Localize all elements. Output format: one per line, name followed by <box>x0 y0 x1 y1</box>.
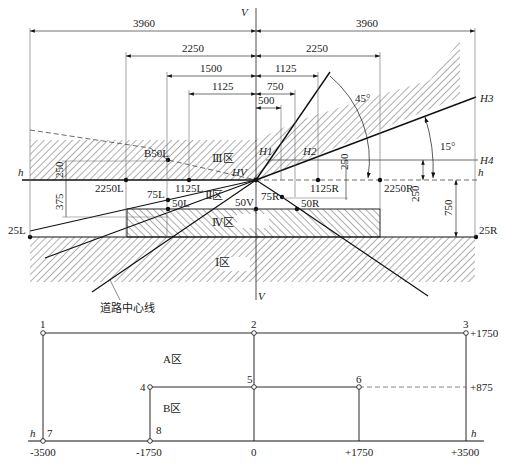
top-diagram: V V h h H4 H3 H1 H2 25L 25R <box>8 6 498 314</box>
dim-left-2250: 2250 <box>182 42 205 54</box>
point-75r: 75R <box>261 190 280 202</box>
dim-right-250: 250 <box>409 185 421 202</box>
point-4: 4 <box>140 381 146 393</box>
point-50r: 50R <box>301 197 320 209</box>
zone-b-label: B区 <box>163 402 181 414</box>
point-2: 2 <box>251 318 257 330</box>
v-axis-label-top: V <box>241 6 249 18</box>
bottom-diagram: h h 1 2 3 4 5 6 7 8 A区 B区 +1750 +875 -35… <box>28 318 499 458</box>
point-1125r: 1125R <box>310 182 340 194</box>
point-75l: 75L <box>147 188 165 200</box>
bottom-h-label-right: h <box>471 427 477 439</box>
point-50l: 50L <box>172 197 190 209</box>
h1-label: H1 <box>258 145 272 157</box>
dim-right-1125: 1125 <box>275 62 297 74</box>
zone-i-area <box>30 237 475 282</box>
point-1: 1 <box>40 318 46 330</box>
point-7: 7 <box>47 427 53 439</box>
point-8: 8 <box>156 424 162 436</box>
h-label-left: h <box>18 166 24 178</box>
x-tick-3500: +3500 <box>451 446 480 458</box>
point-25r: 25R <box>479 224 498 236</box>
x-tick-neg3500: -3500 <box>30 446 56 458</box>
zone-ii-label: Ⅱ区 <box>205 189 223 201</box>
zone-iii-label: Ⅲ区 <box>212 152 234 164</box>
dim-right-750: 750 <box>442 199 454 216</box>
zone-iii-area <box>30 40 460 180</box>
road-centerline-label: 道路中心线 <box>100 301 155 314</box>
dim-left-375: 375 <box>53 193 65 210</box>
angle-15: 15° <box>440 140 455 152</box>
point-hv: HV <box>231 166 248 178</box>
zone-i-label: Ⅰ区 <box>215 256 230 268</box>
zone-iv-label: Ⅳ区 <box>212 216 234 228</box>
dim-mid-250: 250 <box>338 153 350 170</box>
h3-label: H3 <box>479 92 494 104</box>
h2-label: H2 <box>302 145 317 157</box>
dim-left-1500: 1500 <box>200 62 223 74</box>
dim-right-2250: 2250 <box>306 42 329 54</box>
dim-left-3960: 3960 <box>133 17 156 29</box>
dim-right-3960: 3960 <box>356 17 379 29</box>
point-1125l: 1125L <box>175 182 204 194</box>
x-tick-neg1750: -1750 <box>136 446 162 458</box>
x-tick-1750: +1750 <box>345 446 374 458</box>
bottom-h-label-left: h <box>30 427 36 439</box>
zone-a-label: A区 <box>163 353 182 365</box>
point-3: 3 <box>463 318 469 330</box>
y-tick-1750: +1750 <box>470 327 499 339</box>
v-axis-label-bottom: V <box>258 290 266 302</box>
dim-right-500: 500 <box>258 94 275 106</box>
point-50v: 50V <box>235 196 254 208</box>
point-2250l: 2250L <box>95 182 124 194</box>
h4-label: H4 <box>479 154 494 166</box>
x-tick-0: 0 <box>251 446 257 458</box>
point-25l: 25L <box>8 224 26 236</box>
h-label-right: h <box>478 166 484 178</box>
headlamp-zone-diagram: V V h h H4 H3 H1 H2 25L 25R <box>0 0 505 469</box>
angle-45: 45° <box>355 92 370 104</box>
dim-right-750: 750 <box>267 80 284 92</box>
point-5: 5 <box>247 373 253 385</box>
dim-left-1125: 1125 <box>212 80 234 92</box>
point-b50l: B50L <box>144 147 169 159</box>
point-6: 6 <box>356 373 362 385</box>
dim-left-250: 250 <box>53 161 65 178</box>
y-tick-875: +875 <box>470 381 493 393</box>
